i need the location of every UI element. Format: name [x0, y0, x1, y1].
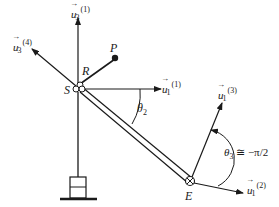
- vector-u3-4-arrow: [32, 49, 76, 86]
- theta-subscript: 2: [143, 108, 147, 117]
- label-u1-3: u1(3): [218, 86, 237, 102]
- joint-e: [186, 177, 195, 186]
- vector-sub: 3: [76, 13, 80, 22]
- label-theta2: θ2: [137, 102, 147, 114]
- vector-sub: 1: [252, 189, 256, 198]
- vector-u1-2-arrow: [194, 183, 243, 193]
- label-point-r: R: [82, 65, 89, 77]
- vector-sup: (3): [228, 86, 237, 95]
- label-u1-1: u1(1): [162, 80, 181, 96]
- vector-sup: (1): [81, 5, 90, 14]
- label-theta3: θ3 ≅ −π/2: [224, 147, 268, 158]
- label-point-e: E: [185, 190, 192, 202]
- vector-sup: (1): [172, 80, 181, 89]
- vector-sub: 3: [18, 46, 22, 55]
- point-p-dot: [112, 55, 118, 61]
- label-point-s: S: [64, 84, 70, 96]
- vector-sup: (2): [257, 181, 266, 190]
- label-point-p: P: [110, 42, 117, 54]
- label-u1-2: u1(2): [247, 181, 266, 197]
- arm-link-lower: [80, 92, 188, 183]
- vector-sup: (4): [23, 38, 32, 47]
- theta3-value: ≅ −π/2: [233, 146, 268, 158]
- vector-sub: 1: [167, 88, 171, 97]
- joint-s-r: [73, 82, 85, 92]
- vector-sub: 1: [223, 94, 227, 103]
- theta-subscript: 3: [229, 152, 233, 161]
- label-u3-4: u3(4): [13, 38, 32, 54]
- label-u3-1: u3(1): [71, 5, 90, 21]
- vector-u1-3-arrow: [192, 103, 222, 177]
